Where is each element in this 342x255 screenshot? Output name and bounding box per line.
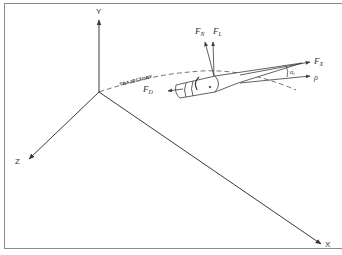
force-axial-label: FX (313, 56, 324, 67)
x-axis-label: X (325, 240, 331, 249)
y-axis-label: Y (96, 7, 102, 16)
z-axis-label: Z (15, 157, 20, 166)
velocity-label: ρ (313, 73, 318, 82)
force-lift-label: FL (212, 26, 223, 37)
angle-label: αt (290, 69, 295, 76)
z-axis: Z (15, 92, 99, 166)
force-lift: FL (212, 26, 223, 76)
force-drag-label: FD (142, 84, 154, 95)
y-axis: Y (96, 7, 102, 92)
force-normal: FN (194, 26, 214, 76)
x-axis: X (99, 92, 331, 249)
projectile-diagram: Y Z X TRAJECTORY FN FL FX ρ (0, 0, 342, 255)
projectile (176, 63, 303, 98)
force-normal-label: FN (194, 26, 206, 37)
